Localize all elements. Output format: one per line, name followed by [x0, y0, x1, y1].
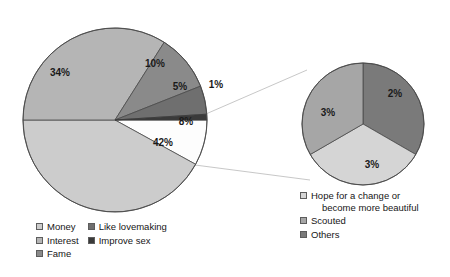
legend-label-fame: Fame: [47, 248, 71, 260]
label-10: 10%: [145, 58, 165, 69]
legend-label-hope: Hope for a change or become more beautif…: [311, 190, 419, 213]
legend-swatch-others: [300, 231, 307, 238]
legend-label-improve-sex: Improve sex: [99, 235, 151, 247]
legend-swatch-money: [36, 223, 43, 230]
legend-column-1: Money Interest Fame: [36, 221, 79, 260]
legend-right-column: Hope for a change or become more beautif…: [300, 190, 419, 240]
legend-item-others[interactable]: Others: [300, 229, 419, 241]
label-1: 1%: [209, 79, 224, 90]
legend-swatch-scouted: [300, 217, 307, 224]
legend-swatch-hope: [300, 192, 307, 199]
legend-label-money: Money: [47, 221, 76, 233]
legend-item-scouted[interactable]: Scouted: [300, 215, 419, 227]
detail-pie: [302, 63, 424, 185]
detail-label-3a: 3%: [321, 107, 336, 118]
legend-label-hope-line2: become more beautiful: [322, 202, 419, 214]
legend-swatch-improve-sex: [88, 237, 95, 244]
label-34: 34%: [50, 67, 70, 78]
legend-swatch-fame: [36, 250, 43, 257]
legend-detail-pie: Hope for a change or become more beautif…: [300, 190, 419, 240]
legend-item-hope[interactable]: Hope for a change or become more beautif…: [300, 190, 419, 213]
legend-swatch-interest: [36, 237, 43, 244]
label-8: 8%: [179, 116, 194, 127]
label-42: 42%: [153, 137, 173, 148]
legend-swatch-like-lovemaking: [88, 223, 95, 230]
legend-item-money[interactable]: Money: [36, 221, 79, 233]
legend-label-hope-line1: Hope for a change or: [311, 190, 400, 201]
legend-main-pie: Money Interest Fame Like lovemaking Impr…: [36, 221, 167, 260]
legend-item-like-lovemaking[interactable]: Like lovemaking: [88, 221, 167, 233]
legend-column-2: Like lovemaking Improve sex: [88, 221, 167, 260]
connector-line-top: [207, 70, 307, 114]
legend-item-interest[interactable]: Interest: [36, 235, 79, 247]
label-5: 5%: [173, 81, 188, 92]
detail-label-2: 2%: [388, 88, 403, 99]
connector-line-bottom: [195, 165, 310, 180]
detail-label-3b: 3%: [365, 159, 380, 170]
legend-label-like-lovemaking: Like lovemaking: [99, 221, 167, 233]
legend-label-scouted: Scouted: [311, 215, 346, 227]
legend-label-interest: Interest: [47, 235, 79, 247]
legend-item-fame[interactable]: Fame: [36, 248, 79, 260]
legend-label-others: Others: [311, 229, 340, 241]
legend-item-improve-sex[interactable]: Improve sex: [88, 235, 167, 247]
